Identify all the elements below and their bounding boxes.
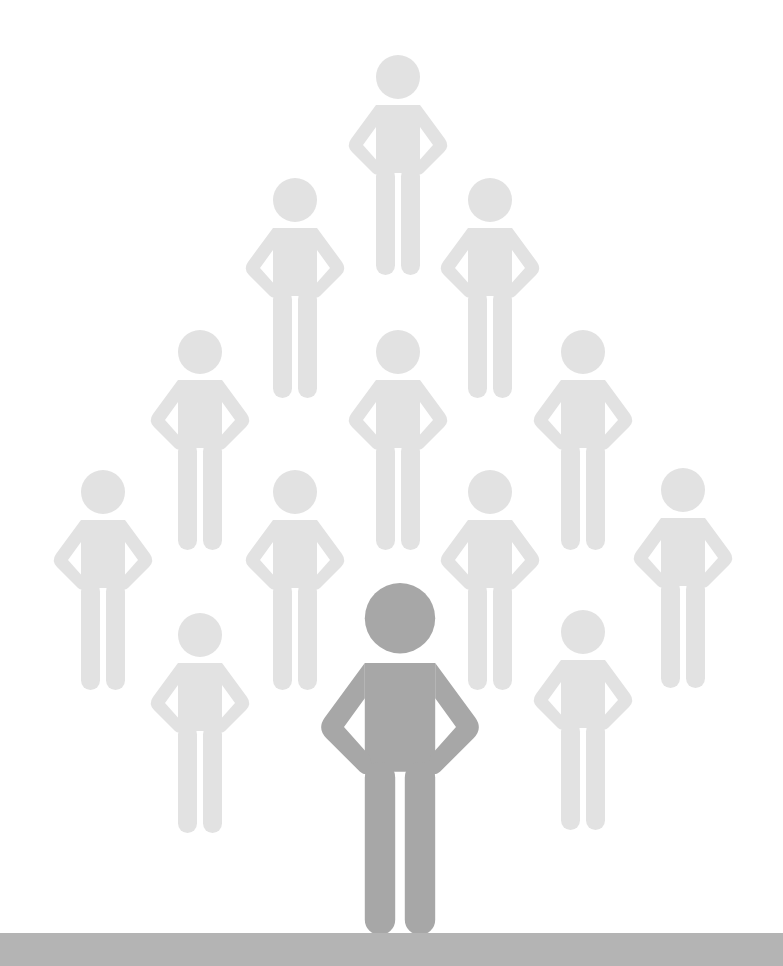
leader-person-icon xyxy=(312,583,488,938)
crowd-person-icon xyxy=(240,178,350,400)
crowd-person-icon xyxy=(628,468,738,690)
crowd-person-icon xyxy=(48,470,158,692)
ground-bar xyxy=(0,933,783,966)
crowd-person-icon xyxy=(145,330,255,552)
crowd-person-icon xyxy=(528,610,638,832)
crowd-person-icon xyxy=(145,613,255,835)
